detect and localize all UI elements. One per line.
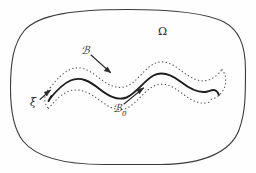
omega-domain-label: Ω <box>158 26 167 37</box>
figure-canvas <box>0 0 256 173</box>
script-k-zero-subscript: 0 <box>122 110 126 118</box>
arrow-from-xi-to-endpoint <box>40 90 51 100</box>
xi-point-label: ξ <box>30 97 36 108</box>
blob-domain-outline <box>11 10 246 165</box>
script-k-zero-curve-label: ℬ0 <box>113 103 126 117</box>
arrow-from-kappa-zero-to-curve <box>124 88 144 104</box>
figure-container: Ω ℬ ℬ0 ξ <box>0 0 256 173</box>
arrow-from-kappa-to-tube <box>91 55 111 73</box>
script-k-zero-base: ℬ <box>113 102 122 115</box>
upper-dotted-tube-boundary <box>51 62 223 88</box>
script-k-tube-label: ℬ <box>81 45 90 56</box>
curve-left-endpoint-tick <box>49 96 52 101</box>
